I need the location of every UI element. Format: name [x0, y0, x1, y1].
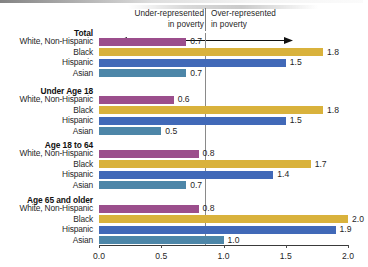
bar-row: Hispanic1.5 [0, 58, 363, 67]
group-age-18-to-64: Age 18 to 64White, Non-Hispanic0.8Black1… [0, 140, 363, 193]
bar-row: Black1.8 [0, 48, 363, 57]
bar-row: White, Non-Hispanic0.7 [0, 37, 363, 46]
bar-white-non-hispanic [99, 96, 174, 104]
bar-value-label: 1.0 [228, 236, 240, 245]
bar-hispanic [99, 59, 286, 67]
bar-row-label: Hispanic [0, 116, 93, 125]
bar-row-label: Black [0, 160, 93, 169]
bar-row-label: White, Non-Hispanic [0, 37, 93, 46]
bar-row: Asian0.5 [0, 127, 363, 136]
bar-value-label: 1.5 [290, 116, 302, 125]
bar-black [99, 48, 323, 56]
bar-value-label: 1.5 [290, 58, 302, 67]
bar-row-label: Asian [0, 236, 93, 245]
bar-asian [99, 127, 161, 135]
bar-value-label: 0.7 [190, 37, 202, 46]
x-tick-label-1.5: 1.5 [266, 251, 306, 261]
bar-row-label: Asian [0, 181, 93, 190]
bar-row: Asian0.7 [0, 181, 363, 190]
bar-black [99, 160, 311, 168]
bar-black [99, 106, 323, 114]
bar-value-label: 0.8 [203, 149, 215, 158]
bar-row: White, Non-Hispanic0.8 [0, 149, 363, 158]
group-total: TotalWhite, Non-Hispanic0.7Black1.8Hispa… [0, 28, 363, 81]
bar-row: Hispanic1.4 [0, 170, 363, 179]
bar-row-label: Hispanic [0, 170, 93, 179]
x-tick-label-2.0: 2.0 [328, 251, 368, 261]
bar-row: Asian0.7 [0, 69, 363, 78]
group-age-65-and-older: Age 65 and olderWhite, Non-Hispanic0.8Bl… [0, 195, 363, 248]
bar-value-label: 1.9 [340, 225, 352, 234]
bar-value-label: 1.7 [315, 160, 327, 169]
group-under-age-18: Under Age 18White, Non-Hispanic0.6Black1… [0, 86, 363, 139]
x-tick-label-0.0: 0.0 [79, 251, 119, 261]
bar-value-label: 2.0 [352, 215, 364, 224]
bar-row: Black1.7 [0, 160, 363, 169]
bar-value-label: 1.8 [327, 106, 339, 115]
bar-row-label: Hispanic [0, 225, 93, 234]
bar-white-non-hispanic [99, 150, 199, 158]
bar-value-label: 1.8 [327, 48, 339, 57]
bar-row-label: White, Non-Hispanic [0, 204, 93, 213]
x-tick-label-0.5: 0.5 [141, 251, 181, 261]
bar-row: Hispanic1.9 [0, 225, 363, 234]
bar-value-label: 0.8 [203, 204, 215, 213]
bar-row: Asian1.0 [0, 236, 363, 245]
bar-row: White, Non-Hispanic0.6 [0, 95, 363, 104]
bar-row-label: White, Non-Hispanic [0, 149, 93, 158]
bar-row-label: Black [0, 106, 93, 115]
bar-row: Black1.8 [0, 106, 363, 115]
bar-row-label: White, Non-Hispanic [0, 95, 93, 104]
bar-value-label: 0.7 [190, 69, 202, 78]
bar-white-non-hispanic [99, 38, 186, 46]
bar-row-label: Black [0, 215, 93, 224]
bar-row-label: Hispanic [0, 58, 93, 67]
bar-asian [99, 181, 186, 189]
bar-value-label: 0.6 [178, 95, 190, 104]
bar-value-label: 1.4 [277, 170, 289, 179]
bar-hispanic [99, 117, 286, 125]
bar-asian [99, 236, 224, 244]
bar-row: White, Non-Hispanic0.8 [0, 204, 363, 213]
bar-hispanic [99, 171, 273, 179]
bar-value-label: 0.5 [165, 127, 177, 136]
x-tick-label-1.0: 1.0 [204, 251, 244, 261]
bar-row-label: Asian [0, 69, 93, 78]
bar-white-non-hispanic [99, 205, 199, 213]
bar-black [99, 215, 348, 223]
bar-hispanic [99, 226, 336, 234]
bar-asian [99, 69, 186, 77]
bar-row-label: Asian [0, 127, 93, 136]
bar-row: Black2.0 [0, 215, 363, 224]
bar-row: Hispanic1.5 [0, 116, 363, 125]
bar-row-label: Black [0, 48, 93, 57]
bar-value-label: 0.7 [190, 181, 202, 190]
